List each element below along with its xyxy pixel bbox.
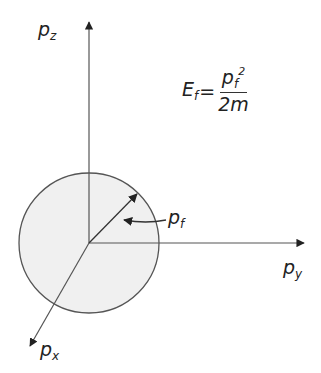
px-axis-label: px <box>40 340 59 362</box>
formula-denominator: 2m <box>218 93 249 115</box>
diagram-canvas <box>0 0 321 373</box>
py-axis-label: py <box>283 258 302 280</box>
formula-fraction: pf2 2m <box>218 66 249 115</box>
formula-equals: = <box>199 80 215 102</box>
formula-lhs: Ef <box>182 78 198 103</box>
formula-numerator: pf2 <box>220 66 247 93</box>
pz-axis-label: pz <box>38 20 56 42</box>
fermi-energy-formula: Ef = pf2 2m <box>182 66 249 115</box>
pf-label: pf <box>168 208 184 230</box>
